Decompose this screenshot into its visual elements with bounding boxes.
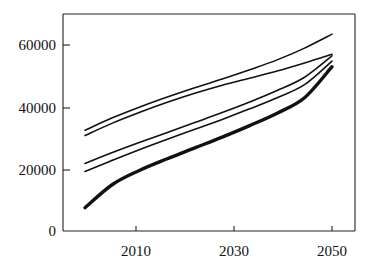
chart-background xyxy=(0,0,381,266)
x-axis-label-2010: 2010 xyxy=(121,243,151,259)
y-axis-label-0: 0 xyxy=(49,223,57,239)
x-axis-label-2030: 2030 xyxy=(219,243,249,259)
chart-canvas: 60000 40000 20000 0 2010 2030 2050 xyxy=(0,0,381,266)
y-axis-label-20000: 20000 xyxy=(19,162,57,178)
line-chart-figure: 60000 40000 20000 0 2010 2030 2050 xyxy=(0,0,381,266)
y-axis-label-60000: 60000 xyxy=(19,37,57,53)
y-axis-label-40000: 40000 xyxy=(19,100,57,116)
x-axis-label-2050: 2050 xyxy=(317,243,347,259)
